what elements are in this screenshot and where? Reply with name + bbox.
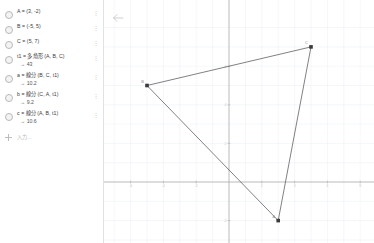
algebra-row[interactable]: A = (3, -2)⋮ <box>0 6 103 21</box>
row-menu-icon[interactable]: ⋮ <box>93 24 99 32</box>
algebra-input-row[interactable]: 入力... <box>0 130 103 143</box>
svg-text:4: 4 <box>225 103 227 107</box>
algebra-row-body: c = 線分 (A, B, t1)→ 10.6 <box>17 110 93 125</box>
algebra-definition[interactable]: B = (-5, 5) <box>17 23 91 31</box>
algebra-panel: A = (3, -2)⋮B = (-5, 5)⋮C = (5, 7)⋮t1 = … <box>0 0 104 243</box>
svg-text:-2: -2 <box>195 184 198 188</box>
algebra-value: → 10.2 <box>17 80 91 88</box>
plus-icon[interactable] <box>5 134 12 141</box>
algebra-definition[interactable]: c = 線分 (A, B, t1) <box>17 110 91 118</box>
svg-text:2: 2 <box>261 184 263 188</box>
algebra-row-list: A = (3, -2)⋮B = (-5, 5)⋮C = (5, 7)⋮t1 = … <box>0 6 103 127</box>
algebra-row[interactable]: a = 線分 (B, C, t1)→ 10.2⋮ <box>0 70 103 89</box>
algebra-row-body: b = 線分 (C, A, t1)→ 9.2 <box>17 91 93 106</box>
visibility-toggle-icon[interactable] <box>5 113 13 121</box>
svg-text:6: 6 <box>326 184 328 188</box>
graphics-view[interactable]: -6-4-22468-2246 ABC <box>104 0 374 243</box>
visibility-toggle-icon[interactable] <box>5 41 13 49</box>
algebra-input-field[interactable]: 入力... <box>17 133 31 141</box>
points-layer[interactable]: ABC <box>141 40 312 223</box>
row-menu-icon[interactable]: ⋮ <box>93 9 99 17</box>
row-menu-icon[interactable]: ⋮ <box>93 39 99 47</box>
axes <box>104 0 374 243</box>
svg-text:-4: -4 <box>162 184 165 188</box>
grid-lines <box>104 0 374 243</box>
algebra-definition[interactable]: t1 = 多角形 (A, B, C) <box>17 53 91 61</box>
svg-text:-2: -2 <box>223 219 226 223</box>
algebra-definition[interactable]: A = (3, -2) <box>17 8 91 16</box>
algebra-row[interactable]: b = 線分 (C, A, t1)→ 9.2⋮ <box>0 89 103 108</box>
algebra-definition[interactable]: C = (5, 7) <box>17 38 91 46</box>
row-menu-icon[interactable]: ⋮ <box>93 111 99 119</box>
algebra-definition[interactable]: b = 線分 (C, A, t1) <box>17 91 91 99</box>
visibility-toggle-icon[interactable] <box>5 26 13 34</box>
algebra-row[interactable]: c = 線分 (A, B, t1)→ 10.6⋮ <box>0 108 103 127</box>
algebra-value: → 43 <box>17 61 91 69</box>
algebra-row[interactable]: B = (-5, 5)⋮ <box>0 21 103 36</box>
visibility-toggle-icon[interactable] <box>5 75 13 83</box>
svg-text:A: A <box>273 214 276 219</box>
row-menu-icon[interactable]: ⋮ <box>93 73 99 81</box>
algebra-value: → 9.2 <box>17 99 91 107</box>
svg-text:4: 4 <box>294 184 296 188</box>
svg-text:-6: -6 <box>129 184 132 188</box>
algebra-row-body: a = 線分 (B, C, t1)→ 10.2 <box>17 72 93 87</box>
algebra-value: → 10.6 <box>17 118 91 126</box>
back-arrow-icon[interactable] <box>112 9 124 19</box>
geogebra-window: A = (3, -2)⋮B = (-5, 5)⋮C = (5, 7)⋮t1 = … <box>0 0 374 243</box>
visibility-toggle-icon[interactable] <box>5 11 13 19</box>
svg-text:C: C <box>305 40 308 45</box>
row-menu-icon[interactable]: ⋮ <box>93 54 99 62</box>
visibility-toggle-icon[interactable] <box>5 94 13 102</box>
algebra-row-body: A = (3, -2) <box>17 8 93 16</box>
svg-text:B: B <box>141 79 144 84</box>
algebra-row[interactable]: t1 = 多角形 (A, B, C)→ 43⋮ <box>0 51 103 70</box>
algebra-row-body: B = (-5, 5) <box>17 23 93 31</box>
algebra-definition[interactable]: a = 線分 (B, C, t1) <box>17 72 91 80</box>
algebra-row-body: C = (5, 7) <box>17 38 93 46</box>
algebra-row-body: t1 = 多角形 (A, B, C)→ 43 <box>17 53 93 68</box>
algebra-row[interactable]: C = (5, 7)⋮ <box>0 36 103 51</box>
coordinate-plane[interactable]: -6-4-22468-2246 ABC <box>104 0 374 243</box>
svg-text:2: 2 <box>225 142 227 146</box>
row-menu-icon[interactable]: ⋮ <box>93 92 99 100</box>
svg-text:8: 8 <box>359 184 361 188</box>
visibility-toggle-icon[interactable] <box>5 56 13 64</box>
